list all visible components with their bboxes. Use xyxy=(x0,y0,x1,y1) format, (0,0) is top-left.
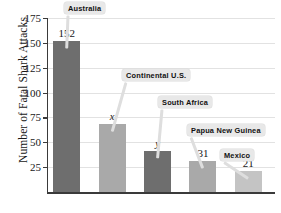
y-tick-label-125: 125 xyxy=(25,62,42,74)
y-tick-label-50: 50 xyxy=(30,136,41,148)
callout-mexico: Mexico xyxy=(220,149,254,161)
callout-australia: Australia xyxy=(64,2,105,14)
bar-australia: 152 xyxy=(53,41,80,192)
x-axis-line xyxy=(47,192,275,194)
bar-continental-u-s-: x xyxy=(99,124,126,192)
y-tick-label-175: 175 xyxy=(25,12,42,24)
tick-mark-125 xyxy=(43,68,48,69)
bar-chart: Number of Fatal Shark Attacks 2550751001… xyxy=(0,0,281,213)
tick-mark-100 xyxy=(43,93,48,94)
callout-continental-u-s-: Continental U.S. xyxy=(122,69,190,81)
y-tick-label-100: 100 xyxy=(25,87,42,99)
tick-mark-25 xyxy=(43,167,48,168)
gridline-100 xyxy=(48,93,275,94)
gridline-50 xyxy=(48,142,275,143)
tick-mark-50 xyxy=(43,142,48,143)
tick-mark-175 xyxy=(43,18,48,19)
tick-mark-75 xyxy=(43,117,48,118)
gridline-175 xyxy=(48,18,275,19)
callout-south-africa: South Africa xyxy=(158,96,212,108)
y-tick-label-75: 75 xyxy=(30,111,41,123)
y-tick-label-150: 150 xyxy=(25,37,42,49)
y-tick-label-25: 25 xyxy=(30,161,41,173)
tick-mark-150 xyxy=(43,43,48,44)
gridline-150 xyxy=(48,43,275,44)
callout-papua-new-guinea: Papua New Guinea xyxy=(187,124,265,136)
